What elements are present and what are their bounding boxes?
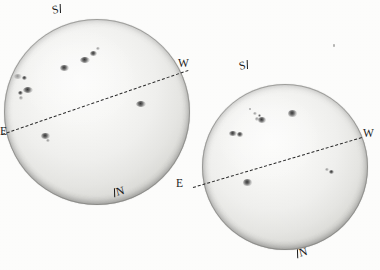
direction-label-south-right: S	[238, 59, 250, 72]
sunspot-group-h	[243, 179, 252, 186]
direction-label-west-left-text: W	[178, 57, 189, 69]
direction-label-west-right-text: W	[363, 127, 374, 139]
sunspot-group-j	[329, 170, 334, 174]
sunspot-group-g	[80, 57, 90, 63]
direction-label-east-right: E	[176, 178, 183, 190]
direction-label-east-right-text: E	[176, 177, 183, 189]
sunspot-group-f	[60, 65, 69, 71]
sunspot-group-g	[237, 132, 243, 137]
sunspot-group-h	[90, 51, 97, 56]
sunspot-group-e	[19, 96, 23, 100]
direction-label-north-right: N	[296, 246, 309, 260]
sunspot-group-i	[96, 47, 100, 50]
direction-label-north-left-text: N	[114, 184, 125, 198]
bottom-caption-fragment	[0, 262, 380, 270]
dust-speck-top-right	[333, 44, 335, 47]
direction-label-south-left: S	[51, 3, 63, 16]
sunspot-group-a	[14, 74, 22, 79]
sunspot-group-f	[229, 131, 237, 136]
direction-label-east-left: E	[0, 126, 7, 138]
direction-label-west-left: W	[178, 58, 189, 70]
sunspot-group-d	[18, 91, 23, 95]
sunspot-group-l	[46, 139, 50, 142]
sunspot-group-j	[136, 101, 146, 107]
sunspot-group-c	[23, 87, 33, 93]
sunspot-group-a	[253, 112, 257, 115]
solar-disk-right	[202, 84, 368, 250]
direction-label-east-left-text: E	[0, 125, 7, 137]
direction-label-north-left: N	[113, 185, 126, 199]
sunspot-group-e	[288, 110, 297, 117]
direction-label-north-right-text: N	[297, 245, 308, 259]
direction-label-west-right: W	[363, 128, 374, 140]
sunspot-group-d	[258, 117, 266, 123]
tick-mark-icon	[247, 60, 248, 69]
sunspot-group-b	[22, 76, 27, 80]
direction-label-south-left-text: S	[51, 3, 60, 16]
tick-mark-icon	[60, 4, 61, 13]
dust-speck-mid	[249, 108, 251, 110]
solar-limb-edge-right	[202, 84, 368, 250]
direction-label-south-right-text: S	[238, 59, 247, 72]
figure-canvas: S W E N S W E N	[0, 0, 380, 270]
